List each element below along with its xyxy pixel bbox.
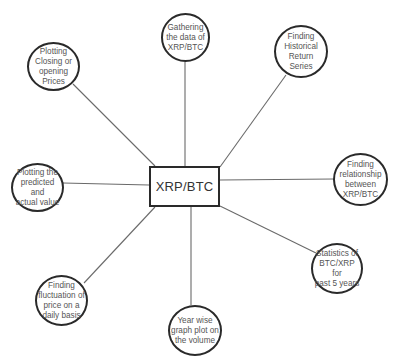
node-label: Finding Historical Return Series bbox=[283, 32, 319, 72]
node-label: Finding fluctuation of price on a daily … bbox=[37, 281, 85, 321]
node-historical-return: Finding Historical Return Series bbox=[274, 25, 328, 78]
node-label: Plotting the predicted and actual value bbox=[13, 168, 62, 208]
node-label: Gathering the data of XRP/BTC bbox=[165, 23, 206, 53]
node-label: Plotting Closing or opening Prices bbox=[34, 47, 73, 87]
connector-fluctuation bbox=[84, 207, 155, 283]
center-node-xrp-btc: XRP/BTC bbox=[149, 166, 220, 207]
node-yearwise-volume: Year wise graph plot on the volume bbox=[168, 305, 222, 356]
connector-statistics bbox=[220, 206, 316, 253]
node-price-fluctuation: Finding fluctuation of price on a daily … bbox=[35, 275, 88, 326]
node-label: Finding relationship between XRP/BTC bbox=[339, 160, 383, 200]
connector-relationship bbox=[220, 179, 334, 180]
node-statistics: Statistics of BTC/XRP for past 5 years bbox=[311, 243, 363, 294]
node-closing-opening-prices: Plotting Closing or opening Prices bbox=[27, 42, 80, 91]
node-gathering-data: Gathering the data of XRP/BTC bbox=[161, 13, 210, 62]
connector-predicted bbox=[63, 183, 149, 185]
node-relationship: Finding relationship between XRP/BTC bbox=[333, 153, 388, 206]
node-label: Statistics of BTC/XRP for past 5 years bbox=[313, 249, 361, 289]
center-node-label: XRP/BTC bbox=[156, 179, 214, 194]
mind-map-diagram: XRP/BTC Gathering the data of XRP/BTC Fi… bbox=[0, 0, 395, 364]
connector-closing bbox=[73, 84, 155, 166]
node-label: Year wise graph plot on the volume bbox=[170, 316, 220, 346]
connector-historical bbox=[220, 75, 286, 167]
node-predicted-actual: Plotting the predicted and actual value bbox=[11, 163, 64, 212]
